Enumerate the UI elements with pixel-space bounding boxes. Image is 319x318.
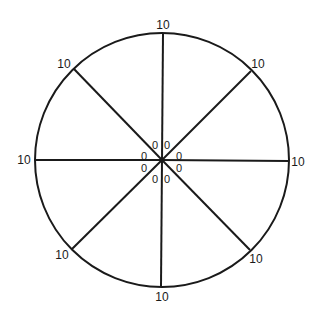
inner-label-bottom-right: 0	[164, 173, 170, 185]
wheel-svg: 1010101010101010 00000000	[0, 0, 319, 318]
inner-label-bottom: 0	[152, 173, 158, 185]
inner-label-left: 0	[141, 150, 147, 162]
inner-label-top-right: 0	[176, 150, 182, 162]
spoke-bottom-left	[72, 160, 162, 249]
wheel-diagram: 1010101010101010 00000000	[0, 0, 319, 318]
outer-label-right: 10	[291, 155, 305, 169]
spoke-top-left	[74, 69, 162, 160]
inner-label-top-left: 0	[152, 139, 158, 151]
outer-label-top: 10	[156, 18, 170, 32]
spokes-group	[36, 34, 288, 286]
outer-label-bottom: 10	[155, 290, 169, 304]
spoke-top-right	[162, 71, 251, 160]
spoke-top	[162, 34, 163, 160]
outer-label-left: 10	[17, 153, 31, 167]
inner-label-bottom-left: 0	[141, 162, 147, 174]
outer-label-top-right: 10	[251, 57, 265, 71]
outer-label-bottom-left: 10	[55, 248, 69, 262]
spoke-bottom	[161, 160, 162, 286]
outer-label-bottom-right: 10	[249, 252, 263, 266]
inner-label-top: 0	[164, 139, 170, 151]
outer-label-top-left: 10	[57, 57, 71, 71]
inner-label-right: 0	[176, 162, 182, 174]
